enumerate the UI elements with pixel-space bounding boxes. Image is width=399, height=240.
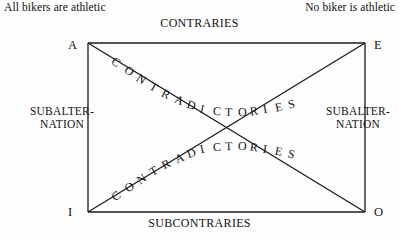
arc-letter: T [225,106,233,118]
diagram-canvas: All bikers are athletic No biker is athl… [0,0,399,240]
arc-letter: O [237,139,246,151]
arc-letter: C [212,105,222,118]
arc-letter: C [212,140,222,153]
arc-letter: T [225,139,233,151]
arc-letter: R [250,105,259,118]
arc-letter: O [237,106,246,118]
opposition-square-figure [0,0,399,240]
